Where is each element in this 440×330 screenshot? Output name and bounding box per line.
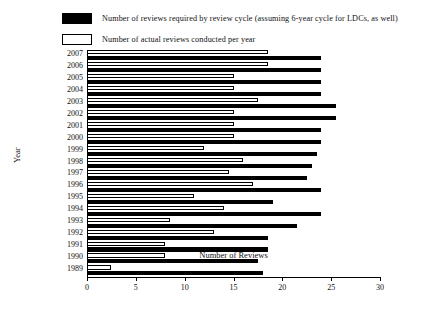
y-axis-tick-label: 1991: [67, 240, 83, 249]
bar-required: [87, 224, 297, 228]
chart-row: 2004: [87, 86, 380, 98]
y-axis-tick-label: 1998: [67, 157, 83, 166]
chart-row: 1998: [87, 158, 380, 170]
chart-row: 1993: [87, 217, 380, 229]
bar-actual: [87, 62, 268, 66]
y-axis-tick-label: 1989: [67, 264, 83, 273]
bar-actual: [87, 98, 258, 102]
chart-row: 1989: [87, 265, 380, 277]
bar-actual: [87, 230, 214, 234]
bar-required: [87, 200, 273, 204]
y-axis-tick-label: 1999: [67, 145, 83, 154]
chart-row: 2001: [87, 122, 380, 134]
legend-item-actual: Number of actual reviews conducted per y…: [62, 31, 398, 48]
y-axis-tick-label: 2007: [67, 49, 83, 58]
bar-required: [87, 188, 321, 192]
bar-actual: [87, 74, 234, 78]
bar-actual: [87, 206, 224, 210]
bar-actual: [87, 146, 204, 150]
bar-required: [87, 92, 321, 96]
bar-actual: [87, 122, 234, 126]
bar-actual: [87, 158, 243, 162]
bar-required: [87, 164, 312, 168]
bar-actual: [87, 182, 253, 186]
bar-required: [87, 68, 321, 72]
bar-required: [87, 236, 268, 240]
bar-required: [87, 176, 307, 180]
chart-row: 1997: [87, 169, 380, 181]
y-axis-tick-label: 1995: [67, 192, 83, 201]
bar-required: [87, 128, 321, 132]
y-axis-tick-label: 1992: [67, 228, 83, 237]
x-axis-tick-label: 10: [181, 283, 189, 292]
x-axis-tick-label: 15: [230, 283, 238, 292]
y-axis-tick-label: 2004: [67, 85, 83, 94]
legend-swatch-required: [62, 13, 92, 24]
bar-required: [87, 56, 321, 60]
bar-required: [87, 271, 263, 275]
y-axis-tick-label: 2006: [67, 61, 83, 70]
legend-label-actual: Number of actual reviews conducted per y…: [102, 35, 255, 44]
chart-row: 2007: [87, 50, 380, 62]
x-axis-tick-label: 25: [327, 283, 335, 292]
y-axis-tick-label: 2003: [67, 97, 83, 106]
bar-actual: [87, 110, 234, 114]
bar-required: [87, 116, 336, 120]
x-axis-title: Number of Reviews: [87, 250, 380, 260]
y-axis-tick-label: 1990: [67, 252, 83, 261]
bar-required: [87, 140, 321, 144]
bar-actual: [87, 265, 111, 269]
x-axis-tick-label: 30: [376, 283, 384, 292]
legend-label-required: Number of reviews required by review cyc…: [102, 14, 398, 23]
y-axis-tick-label: 1996: [67, 180, 83, 189]
chart-row: 2003: [87, 98, 380, 110]
bar-actual: [87, 50, 268, 54]
chart-row: 1994: [87, 205, 380, 217]
plot-area: 2007200620052004200320022001200019991998…: [87, 50, 380, 277]
chart-row: 1992: [87, 229, 380, 241]
x-axis-tick: [136, 277, 137, 281]
y-axis-tick-label: 1993: [67, 216, 83, 225]
legend-swatch-actual: [62, 34, 92, 45]
x-axis-tick-label: 0: [85, 283, 89, 292]
bar-actual: [87, 134, 234, 138]
bar-actual: [87, 170, 229, 174]
bar-required: [87, 104, 336, 108]
chart-row: 2002: [87, 110, 380, 122]
x-axis-tick-label: 5: [134, 283, 138, 292]
chart-figure: Number of reviews required by review cyc…: [0, 0, 440, 330]
x-axis-tick-label: 20: [278, 283, 286, 292]
x-axis-tick: [185, 277, 186, 281]
x-axis-tick: [331, 277, 332, 281]
y-axis-title: Year: [12, 147, 22, 163]
y-axis-tick-label: 1997: [67, 168, 83, 177]
bar-required: [87, 212, 321, 216]
y-axis-tick-label: 2005: [67, 73, 83, 82]
bar-actual: [87, 194, 194, 198]
chart-legend: Number of reviews required by review cyc…: [62, 10, 398, 52]
y-axis-tick-label: 2001: [67, 121, 83, 130]
x-axis-tick: [87, 277, 88, 281]
y-axis-tick-label: 2000: [67, 133, 83, 142]
bar-actual: [87, 242, 165, 246]
chart-row: 2000: [87, 134, 380, 146]
chart-row: 1999: [87, 146, 380, 158]
bar-actual: [87, 218, 170, 222]
bar-required: [87, 259, 258, 263]
bar-actual: [87, 86, 234, 90]
bar-required: [87, 152, 317, 156]
bar-required: [87, 80, 321, 84]
chart-row: 1996: [87, 181, 380, 193]
x-axis-tick: [380, 277, 381, 281]
y-axis-tick-label: 1994: [67, 204, 83, 213]
x-axis-tick: [282, 277, 283, 281]
x-axis-tick: [234, 277, 235, 281]
chart-row: 1995: [87, 193, 380, 205]
legend-item-required: Number of reviews required by review cyc…: [62, 10, 398, 27]
chart-row: 2006: [87, 62, 380, 74]
chart-row: 2005: [87, 74, 380, 86]
y-axis-tick-label: 2002: [67, 109, 83, 118]
